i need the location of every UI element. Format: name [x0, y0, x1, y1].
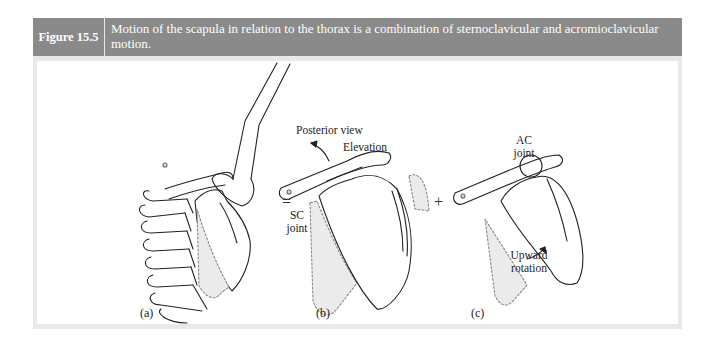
ac-joint-label-line1: AC	[507, 134, 541, 147]
upward-rotation-label: Upward rotation	[507, 249, 551, 275]
scapula-illustration	[37, 61, 678, 324]
figure-panel: Posterior view Elevation SC joint AC joi…	[33, 56, 682, 329]
scapula-rotation-illustration-icon	[454, 155, 583, 305]
figure-caption: Motion of the scapula in relation to the…	[105, 18, 682, 56]
upward-rotation-label-line1: Upward	[507, 249, 551, 262]
panel-label-a: (a)	[140, 306, 153, 321]
figure-canvas: Posterior view Elevation SC joint AC joi…	[37, 61, 678, 324]
panel-label-b: (b)	[316, 306, 330, 321]
thorax-illustration-icon	[139, 63, 290, 323]
ac-joint-label-line2: joint	[507, 147, 541, 160]
figure-number: Figure 15.5	[33, 18, 105, 56]
sc-joint-marker-icon	[461, 194, 465, 198]
sc-joint-label-line2: joint	[283, 222, 311, 235]
sc-joint-label: SC joint	[283, 209, 311, 235]
elevation-label: Elevation	[343, 141, 387, 154]
panel-label-c: (c)	[471, 306, 484, 321]
figure-15-5: Figure 15.5 Motion of the scapula in rel…	[33, 18, 682, 329]
plus-sign: +	[434, 193, 443, 211]
ac-joint-label: AC joint	[507, 134, 541, 160]
sc-joint-marker-icon	[163, 163, 167, 167]
posterior-view-title: Posterior view	[296, 124, 363, 137]
upward-rotation-label-line2: rotation	[507, 262, 551, 275]
equals-sign: =	[282, 193, 291, 211]
figure-header: Figure 15.5 Motion of the scapula in rel…	[33, 18, 682, 56]
